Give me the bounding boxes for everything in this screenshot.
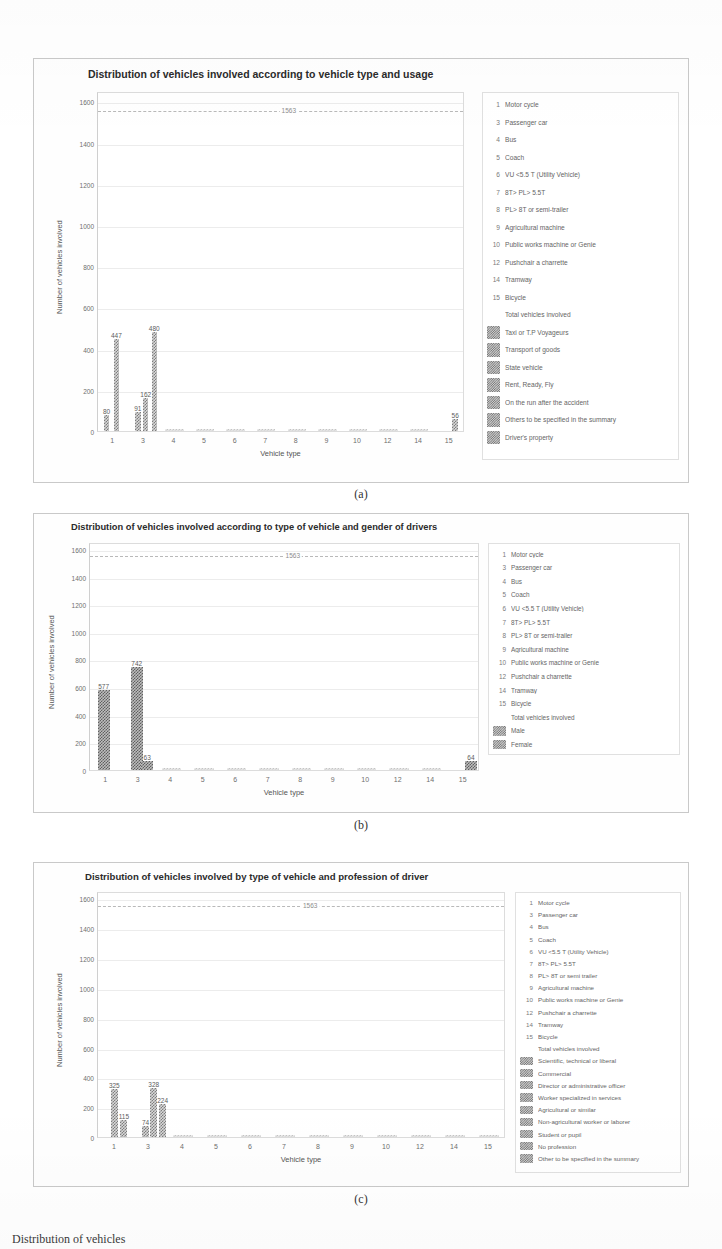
bar — [411, 1135, 431, 1137]
bar-value-label: 447 — [111, 332, 122, 339]
bar — [194, 768, 214, 770]
legend-item: 78T> PL> 5.5T — [520, 958, 677, 970]
legend-item-label: Coach — [511, 592, 676, 598]
legend-item: Total vehicles involved — [487, 307, 675, 325]
legend-item-label: Total vehicles involved — [538, 1046, 677, 1052]
bar — [318, 429, 336, 431]
gridline — [90, 661, 478, 662]
y-axis-tick-label: 800 — [67, 264, 94, 271]
legend-item: 14Tramway — [520, 1019, 677, 1031]
legend-color-swatch — [487, 343, 500, 357]
bar — [150, 1088, 157, 1137]
legend-item: 3Passenger car — [520, 909, 677, 921]
legend-item-label: Student or pupil — [538, 1132, 677, 1138]
legend-item: 6VU <5.5 T (Utility Vehicle) — [487, 167, 675, 185]
chart-c-legend: 1Motor cycle3Passenger car4Bus5Coach6VU … — [515, 892, 681, 1173]
legend-item-label: Bus — [505, 137, 675, 144]
legend-item-label: Coach — [538, 937, 677, 943]
legend-item-key — [520, 1118, 533, 1127]
legend-item-key: 4 — [487, 137, 500, 144]
bar — [349, 429, 367, 431]
legend-item-key — [487, 378, 500, 393]
bar — [98, 690, 110, 770]
legend-item: Total vehicles involved — [493, 711, 676, 725]
legend-item: 3Passenger car — [493, 562, 676, 576]
x-axis-tick-label: 7 — [263, 437, 267, 444]
legend-item-key: 7 — [493, 620, 506, 626]
gridline — [98, 103, 463, 104]
legend-item-key — [520, 1106, 533, 1115]
gridline — [90, 634, 478, 635]
bar — [104, 415, 110, 431]
bar — [309, 1135, 329, 1137]
legend-item-label: Driver's property — [505, 435, 675, 442]
legend-item-key: 10 — [487, 242, 500, 249]
chart-c-title: Distribution of vehicles involved by typ… — [85, 871, 428, 882]
x-axis-tick-label: 5 — [201, 776, 205, 783]
legend-color-swatch — [520, 1081, 533, 1089]
legend-item-label: Bus — [511, 579, 676, 585]
bar — [135, 412, 141, 431]
legend-item-key: 6 — [487, 172, 500, 179]
legend-item-key: 14 — [520, 1022, 533, 1028]
x-axis-tick-label: 12 — [384, 437, 392, 444]
legend-item: 12Pushchair a charrette — [487, 255, 675, 273]
legend-item: 9Agricultural machine — [520, 982, 677, 994]
legend-item: Transport of goods — [487, 342, 675, 360]
bar — [357, 768, 377, 770]
legend-item-key: 3 — [520, 912, 533, 918]
bar-value-label: 325 — [109, 1082, 120, 1089]
y-axis-tick-label: 600 — [59, 685, 86, 692]
legend-item-label: PL> 8T or semi-trailer — [511, 633, 676, 639]
y-axis-tick-label: 600 — [67, 305, 94, 312]
gridline — [98, 930, 504, 931]
x-axis-tick-label: 10 — [382, 1143, 390, 1150]
page-bottom-text: Distribution of vehicles — [12, 1232, 125, 1247]
legend-item: 4Bus — [487, 132, 675, 150]
legend-item-label: State vehicle — [505, 365, 675, 372]
legend-item: 6VU <5.5 T (Utility Vehicle) — [493, 602, 676, 616]
y-axis-tick-label: 600 — [67, 1045, 94, 1052]
legend-item-key: 8 — [520, 973, 533, 979]
bar — [114, 339, 120, 431]
bar-value-label: 80 — [103, 408, 110, 415]
gridline — [98, 268, 463, 269]
legend-item-label: Pushchair a charrette — [511, 674, 676, 680]
legend-item-label: Motor cycle — [511, 552, 676, 558]
legend-item: Scientific, technical or liberal — [520, 1055, 677, 1067]
y-axis-tick-label: 1200 — [67, 181, 94, 188]
legend-item-label: Bicycle — [511, 701, 676, 707]
legend-item-key: 5 — [520, 937, 533, 943]
x-axis-title: Vehicle type — [260, 449, 300, 458]
legend-item: 12Pushchair a charrette — [520, 1007, 677, 1019]
legend-item-label: Scientific, technical or liberal — [538, 1058, 677, 1064]
legend-item-label: Other to be specified in the summary — [538, 1156, 677, 1162]
chart-a-legend: 1Motor cycle3Passenger car4Bus5Coach6VU … — [482, 92, 679, 460]
x-axis-tick-label: 8 — [294, 437, 298, 444]
x-axis-tick-label: 4 — [172, 437, 176, 444]
x-axis-tick-label: 3 — [141, 437, 145, 444]
x-axis-tick-label: 10 — [361, 776, 369, 783]
bar-value-label: 224 — [157, 1097, 168, 1104]
y-axis-tick-label: 1400 — [59, 574, 86, 581]
gridline — [90, 689, 478, 690]
legend-item: 4Bus — [520, 921, 677, 933]
legend-item: Total vehicles involved — [520, 1043, 677, 1055]
legend-item-key: 9 — [487, 225, 500, 232]
legend-color-swatch — [520, 1106, 533, 1114]
legend-item-label: Male — [511, 728, 676, 734]
legend-item: 10Public works machine or Genie — [487, 237, 675, 255]
figure-a: Distribution of vehicles involved accord… — [33, 58, 689, 483]
legend-item-key — [520, 1057, 533, 1066]
legend-item-key — [487, 396, 500, 411]
x-axis-tick-label: 9 — [324, 437, 328, 444]
gridline — [98, 186, 463, 187]
chart-a-plot-area: 1563804479116248056 — [97, 92, 464, 432]
figure-a-caption: (a) — [33, 487, 689, 502]
chart-b-legend: 1Motor cycle3Passenger car4Bus5Coach6VU … — [488, 543, 680, 755]
legend-item-key: 5 — [493, 592, 506, 598]
legend-color-swatch — [487, 431, 500, 445]
legend-item-key: 12 — [493, 674, 506, 680]
legend-item-label: Tramway — [538, 1022, 677, 1028]
legend-item: State vehicle — [487, 360, 675, 378]
